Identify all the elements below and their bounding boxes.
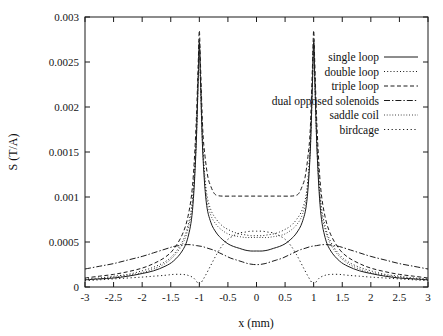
x-tick-label: 0.5 — [278, 291, 292, 303]
x-tick-label: -1.5 — [162, 291, 180, 303]
x-tick-label: 0 — [254, 291, 260, 303]
plot-canvas: -3-2.5-2-1.5-1-0.500.511.522.53 00.00050… — [0, 0, 443, 336]
x-tick-label: -3 — [80, 291, 90, 303]
scientific-plot-figure: -3-2.5-2-1.5-1-0.500.511.522.53 00.00050… — [0, 0, 443, 336]
x-tick-label: 3 — [425, 291, 431, 303]
legend-label-double-loop: double loop — [324, 66, 379, 79]
legend-label-single-loop: single loop — [328, 51, 379, 64]
x-axis-label: x (mm) — [238, 316, 274, 330]
x-tick-label: -2.5 — [105, 291, 123, 303]
legend-label-birdcage: birdcage — [339, 124, 379, 137]
series-curve-single-loop — [85, 42, 428, 280]
y-tick-label: 0 — [74, 281, 80, 293]
legend-label-triple-loop: triple loop — [331, 80, 379, 93]
x-tick-label: -1 — [195, 291, 204, 303]
x-tick-label: 1.5 — [335, 291, 349, 303]
y-tick-label: 0.002 — [54, 101, 79, 113]
x-tick-label: 2.5 — [393, 291, 407, 303]
legend-label-dual-opposed-solenoids: dual opposed solenoids — [272, 95, 380, 108]
x-tick-label: 2 — [368, 291, 374, 303]
y-axis-label: S (T/A) — [6, 134, 20, 171]
x-tick-label: -2 — [138, 291, 147, 303]
x-tick-label: -0.5 — [219, 291, 237, 303]
legend: single loopdouble looptriple loopdual op… — [272, 51, 418, 137]
series-curve-birdcage — [85, 231, 428, 284]
y-tick-label: 0.0015 — [49, 146, 80, 158]
series-curve-dual-opposed-solenoids — [85, 245, 428, 269]
y-tick-label: 0.0025 — [49, 56, 80, 68]
y-tick-label: 0.001 — [54, 191, 79, 203]
legend-label-saddle-coil: saddle coil — [330, 109, 380, 121]
x-tick-label: 1 — [311, 291, 317, 303]
y-tick-label: 0.003 — [54, 11, 79, 23]
y-tick-label: 0.0005 — [49, 236, 80, 248]
